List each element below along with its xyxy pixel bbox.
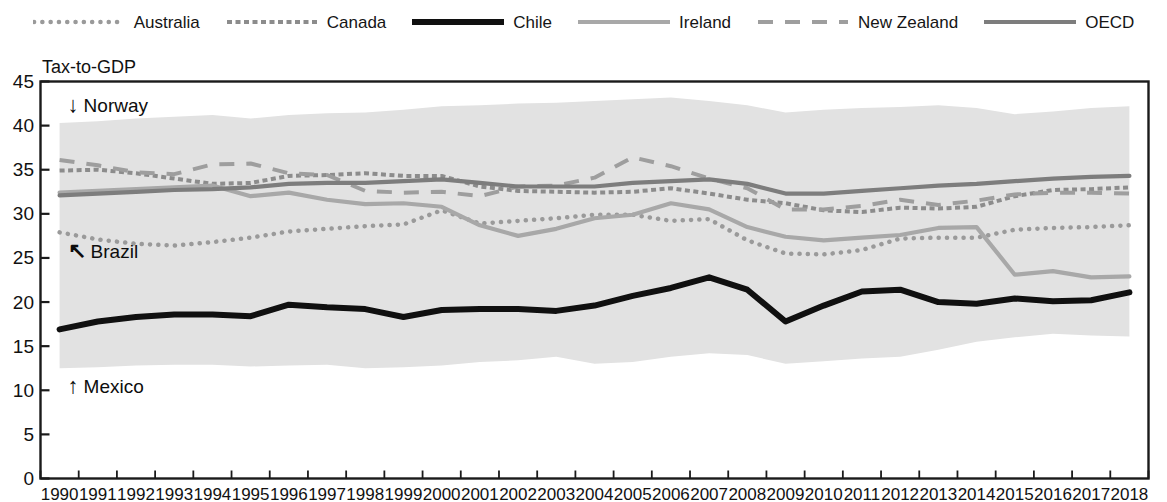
x-tick-label: 1999 [383, 486, 423, 502]
x-tick-label: 2018 [1109, 486, 1149, 502]
x-tick-label: 2011 [842, 486, 882, 502]
arrow-icon-norway: ↓ [68, 92, 79, 117]
x-tick-label: 1997 [307, 486, 347, 502]
x-tick-label: 2007 [689, 486, 729, 502]
x-tick-label: 1996 [269, 486, 309, 502]
annotation-mexico: ↑Mexico [68, 376, 144, 396]
plot-area [0, 0, 1167, 502]
band-transform [60, 97, 1130, 368]
x-tick-label: 1994 [192, 486, 232, 502]
y-tick-label: 5 [0, 425, 34, 444]
x-tick-label: 2012 [880, 486, 920, 502]
chart-figure: AustraliaCanadaChileIrelandNew ZealandOE… [0, 0, 1167, 502]
x-tick-label: 2013 [918, 486, 958, 502]
y-tick-label: 45 [0, 72, 34, 91]
x-tick-label: 2010 [804, 486, 844, 502]
annotation-norway: ↓Norway [68, 95, 148, 115]
x-tick-label: 1992 [116, 486, 156, 502]
x-tick-label: 2000 [422, 486, 462, 502]
y-tick-label: 30 [0, 204, 34, 223]
x-tick-label: 2016 [1033, 486, 1073, 502]
x-tick-label: 1995 [231, 486, 271, 502]
x-tick-label: 1991 [78, 486, 118, 502]
annotation-label-mexico: Mexico [84, 376, 144, 397]
x-tick-label: 2014 [957, 486, 997, 502]
x-tick-label: 1990 [40, 486, 80, 502]
x-tick-label: 2015 [995, 486, 1035, 502]
x-tick-label: 2009 [766, 486, 806, 502]
x-tick-label: 2006 [651, 486, 691, 502]
x-tick-label: 2003 [536, 486, 576, 502]
x-tick-label: 2008 [727, 486, 767, 502]
y-tick-label: 25 [0, 248, 34, 267]
x-tick-label: 2017 [1071, 486, 1111, 502]
x-tick-label: 2004 [575, 486, 615, 502]
x-tick-label: 2001 [460, 486, 500, 502]
oecd-range-band [60, 97, 1130, 368]
clipped-group [41, 82, 1149, 479]
x-tick-label: 1998 [345, 486, 385, 502]
y-tick-label: 10 [0, 381, 34, 400]
y-tick-label: 40 [0, 116, 34, 135]
annotation-brazil: ↖Brazil [68, 241, 139, 261]
y-tick-label: 20 [0, 293, 34, 312]
arrow-icon-brazil: ↖ [68, 238, 86, 263]
y-tick-label: 0 [0, 469, 34, 488]
annotation-label-norway: Norway [84, 95, 148, 116]
arrow-icon-mexico: ↑ [68, 373, 79, 398]
annotation-label-brazil: Brazil [91, 241, 139, 262]
x-tick-label: 2002 [498, 486, 538, 502]
y-tick-label: 15 [0, 337, 34, 356]
x-tick-label: 2005 [613, 486, 653, 502]
x-tick-label: 1993 [154, 486, 194, 502]
y-tick-label: 35 [0, 160, 34, 179]
